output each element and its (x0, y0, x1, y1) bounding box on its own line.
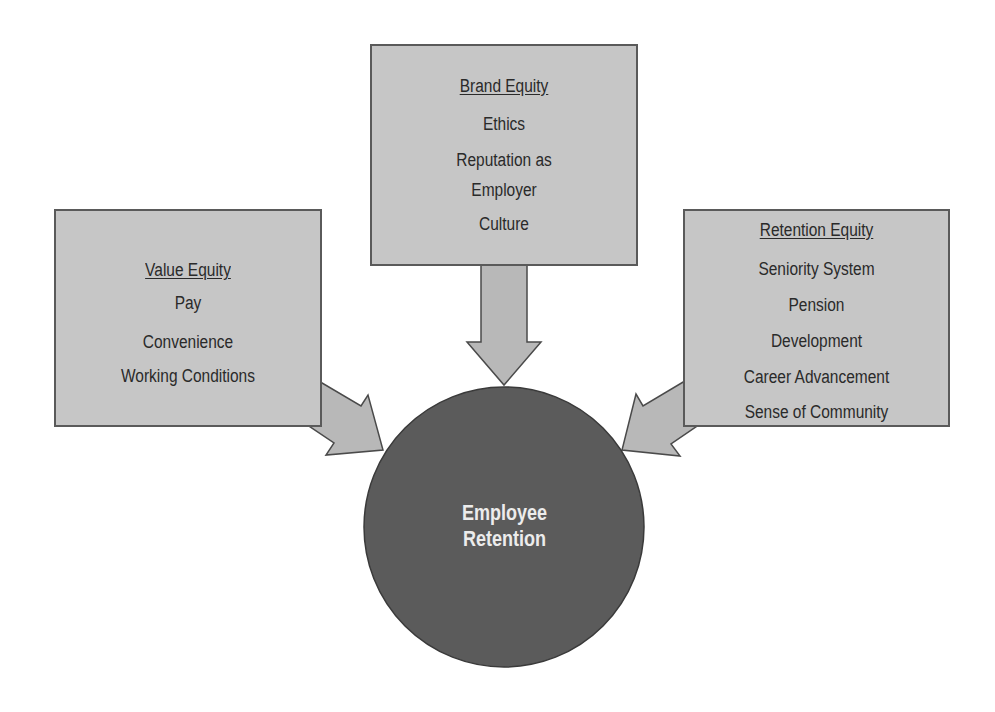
retention-equity-heading: Retention Equity (703, 220, 929, 240)
brand-item: Reputation as (390, 150, 617, 170)
brand-item: Employer (390, 180, 617, 200)
center-label-line1: Employee (389, 500, 619, 526)
retention-equity-box: Retention Equity Seniority System Pensio… (683, 209, 950, 427)
arrow-brand-to-retention (467, 260, 541, 385)
center-label-line2: Retention (389, 526, 619, 552)
retention-item: Seniority System (703, 259, 929, 279)
brand-item: Culture (390, 214, 617, 234)
employee-retention-label: Employee Retention (389, 500, 619, 552)
value-equity-heading: Value Equity (74, 260, 301, 280)
value-item: Pay (74, 293, 301, 313)
value-item: Working Conditions (74, 366, 301, 386)
value-equity-box: Value Equity Pay Convenience Working Con… (54, 209, 322, 427)
value-item: Convenience (74, 332, 301, 352)
brand-item: Ethics (390, 114, 617, 134)
retention-item: Career Advancement (703, 367, 929, 387)
retention-item: Development (703, 331, 929, 351)
retention-item: Pension (703, 295, 929, 315)
brand-equity-box: Brand Equity Ethics Reputation as Employ… (370, 44, 638, 266)
brand-equity-heading: Brand Equity (390, 76, 617, 96)
retention-item: Sense of Community (703, 402, 929, 422)
